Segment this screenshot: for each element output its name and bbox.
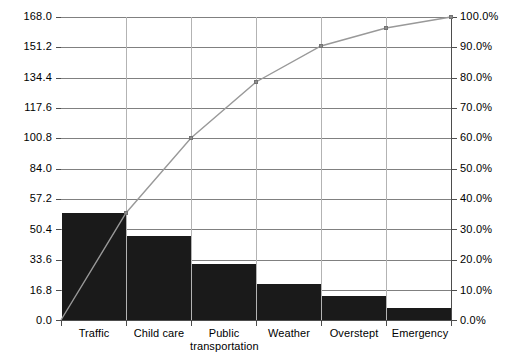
cumulative-marker-overstept[interactable] xyxy=(384,26,388,30)
x-axis-label-emergency: Emergency xyxy=(387,327,453,340)
x-axis-label-weather: Weather xyxy=(257,327,321,340)
y-axis-right-tick-0: 0.0% xyxy=(460,315,512,326)
y-axis-left-labels: 168.0 151.2 134.4 117.6 100.8 84.0 57.2 … xyxy=(0,0,52,354)
y-axis-left-tick-117: 117.6 xyxy=(0,102,52,113)
y-axis-right-tick-30: 30.0% xyxy=(460,224,512,235)
y-axis-right-tick-20: 20.0% xyxy=(460,254,512,265)
y-tick-mark-right-5 xyxy=(452,169,457,170)
pareto-chart: 168.0 151.2 134.4 117.6 100.8 84.0 57.2 … xyxy=(0,0,512,354)
cumulative-marker-traffic[interactable] xyxy=(124,211,128,215)
cumulative-marker-emergency[interactable] xyxy=(449,15,453,19)
y-axis-right-tick-100: 100.0% xyxy=(460,11,512,22)
x-axis-label-public-transportation: Public transportation xyxy=(190,327,258,352)
y-axis-right-tick-40: 40.0% xyxy=(460,193,512,204)
cumulative-marker-child-care[interactable] xyxy=(189,136,193,140)
y-axis-left-tick-84: 84.0 xyxy=(0,163,52,174)
x-axis-label-traffic: Traffic xyxy=(62,327,126,340)
y-axis-left-tick-67: 57.2 xyxy=(0,193,52,204)
x-tick-mark-2 xyxy=(191,321,192,326)
y-axis-left-tick-16: 16.8 xyxy=(0,285,52,296)
y-axis-left-tick-151: 151.2 xyxy=(0,41,52,52)
y-axis-left-tick-50: 50.4 xyxy=(0,224,52,235)
x-axis-label-overstept: Overstept xyxy=(322,327,386,340)
y-axis-right-tick-50: 50.0% xyxy=(460,163,512,174)
y-axis-right-tick-10: 10.0% xyxy=(460,285,512,296)
x-tick-mark-3 xyxy=(256,321,257,326)
x-tick-mark-6 xyxy=(451,321,452,326)
y-axis-right-line xyxy=(451,17,452,321)
x-tick-mark-0 xyxy=(61,321,62,326)
y-axis-left-tick-0: 0.0 xyxy=(0,315,52,326)
x-tick-mark-4 xyxy=(321,321,322,326)
y-axis-left-tick-100: 100.8 xyxy=(0,132,52,143)
y-axis-left-tick-168: 168.0 xyxy=(0,11,52,22)
y-tick-mark-right-9 xyxy=(452,47,457,48)
cumulative-polyline xyxy=(61,17,451,320)
y-tick-mark-right-1 xyxy=(452,290,457,291)
y-tick-mark-right-8 xyxy=(452,78,457,79)
y-tick-mark-right-0 xyxy=(452,320,457,321)
y-axis-left-tick-33: 33.6 xyxy=(0,254,52,265)
x-tick-mark-1 xyxy=(126,321,127,326)
y-axis-left-tick-134: 134.4 xyxy=(0,72,52,83)
y-tick-mark-right-4 xyxy=(452,199,457,200)
x-axis-label-child-care: Child care xyxy=(127,327,191,340)
y-tick-mark-right-7 xyxy=(452,108,457,109)
y-tick-mark-right-3 xyxy=(452,229,457,230)
cumulative-marker-weather[interactable] xyxy=(319,44,323,48)
y-axis-right-tick-90: 90.0% xyxy=(460,41,512,52)
y-tick-mark-right-2 xyxy=(452,260,457,261)
y-axis-right-tick-60: 60.0% xyxy=(460,132,512,143)
y-tick-mark-right-6 xyxy=(452,138,457,139)
cumulative-percentage-line xyxy=(61,17,451,320)
x-tick-mark-5 xyxy=(386,321,387,326)
y-axis-right-tick-70: 70.0% xyxy=(460,102,512,113)
cumulative-marker-public-transportation[interactable] xyxy=(254,80,258,84)
plot-area xyxy=(61,17,451,320)
y-axis-right-tick-80: 80.0% xyxy=(460,72,512,83)
